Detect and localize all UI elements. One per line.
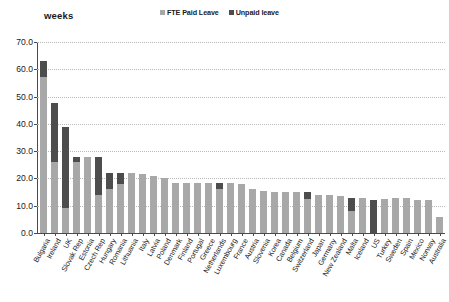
bar-segment-fte-paid-leave[interactable] [84, 157, 92, 233]
bar-segment-unpaid-leave[interactable] [304, 192, 312, 199]
bar-stack[interactable] [172, 183, 180, 233]
bar-stack[interactable] [348, 198, 356, 233]
bar-segment-fte-paid-leave[interactable] [425, 200, 433, 233]
bar-stack[interactable] [106, 173, 114, 233]
bar-stack[interactable] [238, 184, 246, 233]
bar-group[interactable] [324, 42, 335, 233]
bar-group[interactable] [115, 42, 126, 233]
bar-stack[interactable] [293, 192, 301, 233]
bar-stack[interactable] [205, 183, 213, 233]
bar-segment-unpaid-leave[interactable] [348, 198, 356, 212]
bar-group[interactable] [203, 42, 214, 233]
bar-group[interactable] [412, 42, 423, 233]
bar-group[interactable] [38, 42, 49, 233]
bar-stack[interactable] [260, 191, 268, 233]
bar-stack[interactable] [139, 174, 147, 233]
bar-group[interactable] [60, 42, 71, 233]
bar-segment-fte-paid-leave[interactable] [117, 184, 125, 233]
bar-segment-fte-paid-leave[interactable] [73, 162, 81, 233]
bar-segment-fte-paid-leave[interactable] [359, 198, 367, 233]
bar-stack[interactable] [337, 196, 345, 233]
bar-segment-fte-paid-leave[interactable] [403, 198, 411, 233]
bar-group[interactable] [335, 42, 346, 233]
bar-stack[interactable] [425, 200, 433, 233]
bar-stack[interactable] [359, 198, 367, 233]
bar-segment-fte-paid-leave[interactable] [139, 174, 147, 233]
bar-stack[interactable] [128, 173, 136, 233]
bar-stack[interactable] [62, 127, 70, 233]
bar-segment-unpaid-leave[interactable] [95, 157, 103, 195]
bar-group[interactable] [280, 42, 291, 233]
bar-group[interactable] [434, 42, 445, 233]
bar-segment-fte-paid-leave[interactable] [40, 77, 48, 233]
bar-segment-unpaid-leave[interactable] [117, 173, 125, 184]
bar-stack[interactable] [194, 183, 202, 233]
bar-segment-fte-paid-leave[interactable] [348, 211, 356, 233]
bar-group[interactable] [247, 42, 258, 233]
bar-segment-unpaid-leave[interactable] [216, 183, 224, 190]
bar-group[interactable] [390, 42, 401, 233]
bar-stack[interactable] [161, 178, 169, 233]
bar-segment-unpaid-leave[interactable] [51, 103, 59, 162]
bar-segment-fte-paid-leave[interactable] [392, 198, 400, 233]
bar-segment-unpaid-leave[interactable] [370, 200, 378, 233]
bar-segment-fte-paid-leave[interactable] [205, 183, 213, 233]
bar-segment-fte-paid-leave[interactable] [249, 189, 257, 233]
bar-segment-fte-paid-leave[interactable] [260, 191, 268, 233]
bar-group[interactable] [302, 42, 313, 233]
bar-group[interactable] [170, 42, 181, 233]
bar-group[interactable] [236, 42, 247, 233]
bar-segment-fte-paid-leave[interactable] [216, 189, 224, 233]
bar-group[interactable] [71, 42, 82, 233]
bar-segment-fte-paid-leave[interactable] [326, 195, 334, 233]
bar-stack[interactable] [51, 103, 59, 233]
bar-group[interactable] [269, 42, 280, 233]
bar-group[interactable] [258, 42, 269, 233]
bar-group[interactable] [181, 42, 192, 233]
bar-segment-fte-paid-leave[interactable] [128, 173, 136, 233]
bar-group[interactable] [137, 42, 148, 233]
bar-stack[interactable] [414, 200, 422, 233]
bar-segment-unpaid-leave[interactable] [40, 61, 48, 77]
bar-group[interactable] [291, 42, 302, 233]
bar-stack[interactable] [282, 192, 290, 233]
bar-segment-fte-paid-leave[interactable] [172, 183, 180, 233]
bar-segment-fte-paid-leave[interactable] [304, 199, 312, 233]
bar-group[interactable] [423, 42, 434, 233]
bar-segment-fte-paid-leave[interactable] [238, 184, 246, 233]
bar-segment-fte-paid-leave[interactable] [194, 183, 202, 233]
bar-stack[interactable] [315, 195, 323, 233]
bar-segment-fte-paid-leave[interactable] [271, 192, 279, 233]
bar-segment-fte-paid-leave[interactable] [227, 183, 235, 233]
bar-segment-fte-paid-leave[interactable] [51, 162, 59, 233]
bar-group[interactable] [379, 42, 390, 233]
bar-group[interactable] [401, 42, 412, 233]
bar-group[interactable] [214, 42, 225, 233]
bar-segment-unpaid-leave[interactable] [62, 127, 70, 209]
bar-stack[interactable] [183, 183, 191, 233]
bar-stack[interactable] [436, 217, 444, 233]
bar-segment-fte-paid-leave[interactable] [381, 199, 389, 233]
bar-group[interactable] [159, 42, 170, 233]
bar-stack[interactable] [381, 199, 389, 233]
bar-stack[interactable] [95, 157, 103, 233]
bar-segment-fte-paid-leave[interactable] [95, 195, 103, 233]
bar-segment-unpaid-leave[interactable] [106, 173, 114, 189]
bar-group[interactable] [368, 42, 379, 233]
bar-stack[interactable] [227, 183, 235, 233]
bar-group[interactable] [104, 42, 115, 233]
bar-segment-fte-paid-leave[interactable] [436, 217, 444, 233]
bar-stack[interactable] [304, 192, 312, 233]
bar-group[interactable] [148, 42, 159, 233]
bar-group[interactable] [225, 42, 236, 233]
bar-group[interactable] [313, 42, 324, 233]
bar-segment-fte-paid-leave[interactable] [62, 208, 70, 233]
bar-stack[interactable] [84, 157, 92, 233]
bar-group[interactable] [357, 42, 368, 233]
bar-stack[interactable] [150, 176, 158, 233]
bar-segment-fte-paid-leave[interactable] [161, 178, 169, 233]
bar-stack[interactable] [271, 192, 279, 233]
bar-group[interactable] [346, 42, 357, 233]
bar-stack[interactable] [403, 198, 411, 233]
bar-group[interactable] [126, 42, 137, 233]
